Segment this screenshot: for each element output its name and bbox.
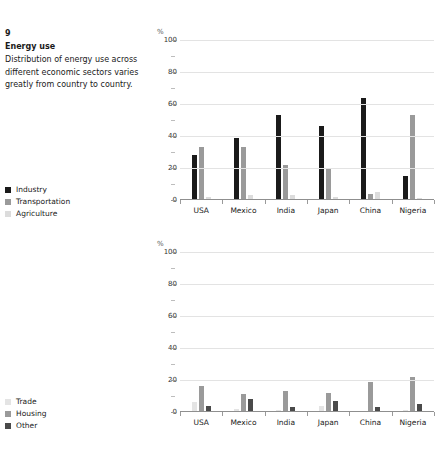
y-axis-unit-label: % (157, 240, 164, 248)
legend-swatch-other (5, 423, 11, 429)
bar[interactable] (241, 394, 246, 412)
bar-groups (180, 40, 434, 200)
legend-item-other: Other (5, 420, 47, 431)
x-axis-tick-mark (434, 200, 435, 204)
y-axis-labels: 020406080100 (155, 40, 177, 200)
x-axis-tick-mark (307, 412, 308, 416)
bar[interactable] (199, 386, 204, 412)
bar[interactable] (326, 393, 331, 412)
x-axis-tick-label: USA (193, 418, 209, 427)
y-axis-tick-mark (171, 72, 177, 73)
x-axis-tick-label: Nigeria (399, 206, 426, 215)
x-axis-tick-mark (265, 200, 266, 204)
y-axis-tick-mark (171, 348, 177, 349)
y-axis-minor-tick-mark (171, 396, 175, 397)
bar[interactable] (410, 377, 415, 412)
legend-label-transportation: Transportation (16, 197, 70, 206)
legend-item-industry: Industry (5, 184, 70, 195)
x-axis-tick-mark (265, 412, 266, 416)
y-axis-minor-tick-mark (171, 56, 175, 57)
bar[interactable] (326, 168, 331, 200)
x-axis-tick-mark (349, 200, 350, 204)
legend-swatch-agriculture (5, 211, 11, 217)
figure-description: Distribution of energy use across differ… (5, 54, 145, 92)
x-axis-tick-label: China (360, 206, 381, 215)
legend-swatch-trade (5, 399, 11, 405)
plot-area (180, 252, 434, 412)
y-axis-minor-tick-mark (171, 300, 175, 301)
gridline (180, 72, 434, 73)
legend-label-industry: Industry (16, 185, 47, 194)
y-axis-minor-tick-mark (171, 120, 175, 121)
x-axis-tick-label: Japan (318, 206, 339, 215)
bar-group (307, 40, 349, 200)
x-axis-tick-mark (307, 200, 308, 204)
legend-item-housing: Housing (5, 408, 47, 419)
legend-label-agriculture: Agriculture (16, 209, 57, 218)
bar-group (222, 252, 264, 412)
x-axis-tick-mark (222, 200, 223, 204)
y-axis-tick-mark (171, 316, 177, 317)
x-axis-tick-mark (434, 412, 435, 416)
x-axis-tick-mark (392, 412, 393, 416)
y-axis-minor-tick-mark (171, 364, 175, 365)
y-axis-labels: 020406080100 (155, 252, 177, 412)
x-axis-labels: USAMexicoIndiaJapanChinaNigeria (180, 412, 434, 432)
legend-label-other: Other (16, 421, 37, 430)
bar[interactable] (241, 147, 246, 200)
x-axis-tick-label: Mexico (230, 206, 256, 215)
legend-top: Industry Transportation Agriculture (5, 184, 70, 220)
bar[interactable] (368, 382, 373, 412)
figure-page: 9 Energy use Distribution of energy use … (0, 0, 440, 451)
bar-group (349, 40, 391, 200)
legend-label-housing: Housing (16, 409, 47, 418)
chart-energy-use-top: % 020406080100 USAMexicoIndiaJapanChinaN… (155, 28, 437, 233)
y-axis-tick-mark (171, 104, 177, 105)
legend-label-trade: Trade (16, 397, 37, 406)
y-axis-tick-mark (171, 40, 177, 41)
bar-group (392, 40, 434, 200)
y-axis-unit-label: % (157, 28, 164, 36)
y-axis-tick-mark (171, 252, 177, 253)
y-axis-tick-mark (171, 284, 177, 285)
legend-bottom: Trade Housing Other (5, 396, 47, 432)
y-axis-tick-mark (171, 136, 177, 137)
bar[interactable] (410, 115, 415, 200)
bar[interactable] (319, 126, 324, 200)
bar[interactable] (276, 115, 281, 200)
legend-item-transportation: Transportation (5, 196, 70, 207)
chart-energy-use-bottom: % 020406080100 USAMexicoIndiaJapanChinaN… (155, 240, 437, 445)
y-axis-tick-mark (171, 200, 177, 201)
y-axis-tick-mark (171, 168, 177, 169)
bar[interactable] (192, 155, 197, 200)
plot-area (180, 40, 434, 200)
bar-group (392, 252, 434, 412)
gridline (180, 104, 434, 105)
x-axis-tick-label: China (360, 418, 381, 427)
y-axis-minor-tick-mark (171, 332, 175, 333)
x-axis-tick-mark (180, 200, 181, 204)
x-axis-tick-label: India (277, 206, 295, 215)
bar-group (265, 40, 307, 200)
legend-item-agriculture: Agriculture (5, 208, 70, 219)
bar-group (222, 40, 264, 200)
bar-groups (180, 252, 434, 412)
legend-swatch-industry (5, 187, 11, 193)
x-axis-labels: USAMexicoIndiaJapanChinaNigeria (180, 200, 434, 220)
bar[interactable] (361, 98, 366, 200)
bar[interactable] (403, 176, 408, 200)
bar-group (180, 252, 222, 412)
y-axis-minor-tick-mark (171, 152, 175, 153)
bar[interactable] (283, 391, 288, 412)
y-axis-tick-mark (171, 380, 177, 381)
y-axis-minor-tick-mark (171, 88, 175, 89)
bar[interactable] (283, 165, 288, 200)
bar[interactable] (199, 147, 204, 200)
x-axis-tick-label: Nigeria (399, 418, 426, 427)
y-axis-minor-tick-mark (171, 184, 175, 185)
x-axis-tick-label: Mexico (230, 418, 256, 427)
x-axis-tick-mark (180, 412, 181, 416)
bar-group (180, 40, 222, 200)
gridline (180, 252, 434, 253)
x-axis-tick-label: Japan (318, 418, 339, 427)
